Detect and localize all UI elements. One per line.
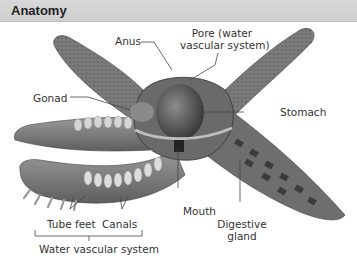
gonad [130,102,154,122]
label-digestive-line2: gland [215,230,269,242]
label-digestive-line1: Digestive [215,218,269,230]
label-tube-feet: Tube feet [47,218,96,230]
label-gonad: Gonad [33,92,67,104]
label-canals: Canals [102,218,137,230]
label-anus: Anus [115,35,141,47]
section-header: Anatomy [0,0,357,22]
label-stomach: Stomach [280,106,326,118]
section-title: Anatomy [11,3,67,18]
mouth [174,140,184,152]
label-mouth: Mouth [183,205,216,217]
label-water-vascular-system: Water vascular system [39,243,159,255]
starfish-anatomy-figure: Anus Pore (water vascular system) Gonad … [0,22,357,265]
label-pore-line1: Pore (water [189,27,255,39]
label-pore-line2: vascular system) [180,39,264,51]
stomach [156,84,204,140]
